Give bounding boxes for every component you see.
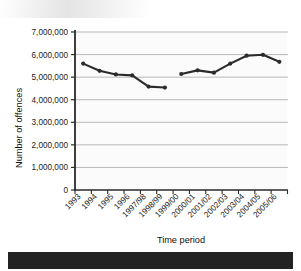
y-tick-label: 6,000,000: [32, 51, 69, 60]
data-point-marker: [130, 73, 134, 77]
y-tick-label: 3,000,000: [32, 118, 69, 127]
data-point-marker: [245, 54, 249, 58]
data-point-marker: [179, 72, 183, 76]
data-point-marker: [277, 60, 281, 64]
data-point-marker: [261, 53, 265, 57]
y-tick-label: 0: [63, 186, 68, 195]
data-point-marker: [114, 72, 118, 76]
x-tick-label: 1994: [80, 192, 100, 212]
y-tick-label: 1,000,000: [32, 163, 69, 172]
page-edge-band: [8, 252, 293, 269]
offences-line-chart: 01,000,0002,000,0003,000,0004,000,0005,0…: [0, 0, 301, 271]
data-point-marker: [195, 68, 199, 72]
y-axis-title: Number of offences: [14, 88, 24, 168]
y-axis-ticks: 01,000,0002,000,0003,000,0004,000,0005,0…: [32, 28, 75, 195]
data-point-marker: [163, 85, 167, 89]
data-point-marker: [228, 62, 232, 66]
data-point-marker: [146, 85, 150, 89]
x-axis-title: Time period: [157, 235, 205, 245]
data-point-marker: [212, 71, 216, 75]
figure-container: 01,000,0002,000,0003,000,0004,000,0005,0…: [0, 0, 301, 271]
data-point-marker: [97, 69, 101, 73]
data-point-marker: [81, 62, 85, 66]
y-tick-label: 7,000,000: [32, 28, 69, 37]
y-tick-label: 2,000,000: [32, 141, 69, 150]
y-tick-label: 4,000,000: [32, 96, 69, 105]
x-tick-label: 1995: [96, 192, 116, 212]
x-axis-tick-labels: 19931994199519961997/981998/991999/00200…: [63, 192, 279, 220]
y-tick-label: 5,000,000: [32, 73, 69, 82]
